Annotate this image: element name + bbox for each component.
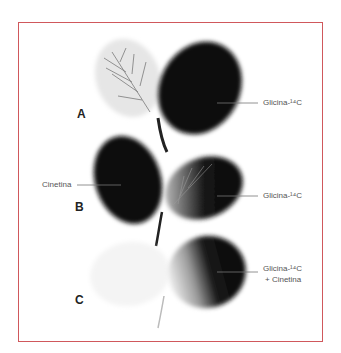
label-c-cinetina: + Cinetina bbox=[265, 275, 301, 285]
label-c-glicina: Glicina-¹⁴C bbox=[263, 264, 302, 274]
panel-c-leaves bbox=[85, 227, 254, 328]
leaf-autoradiographs bbox=[0, 0, 341, 353]
panel-a-leaves bbox=[84, 27, 258, 152]
label-b-glicina: Glicina-¹⁴C bbox=[263, 191, 302, 201]
label-b-cinetina: Cinetina bbox=[42, 180, 71, 190]
panel-b-leaves bbox=[83, 127, 253, 246]
panel-letter-c: C bbox=[75, 293, 84, 307]
label-a-glicina: Glicina-¹⁴C bbox=[263, 98, 302, 108]
panel-letter-a: A bbox=[77, 107, 86, 121]
panel-letter-b: B bbox=[75, 200, 84, 214]
